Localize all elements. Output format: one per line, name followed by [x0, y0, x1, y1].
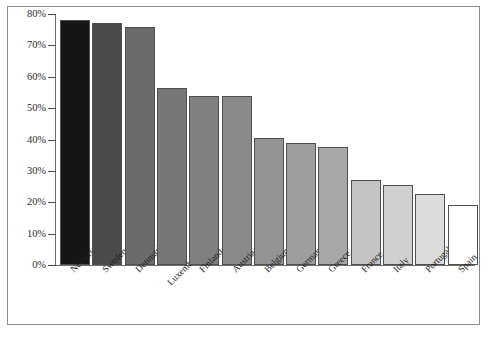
bar [222, 96, 252, 265]
chart-figure: 80%70%60%50%40%30%20%10%0% NetherlandsSw… [0, 0, 492, 339]
bar [189, 96, 219, 265]
bar [92, 23, 122, 265]
bar [157, 88, 187, 265]
bar [60, 20, 90, 265]
bar [125, 27, 155, 265]
bar [254, 138, 284, 265]
bar [318, 147, 348, 265]
bar [383, 185, 413, 265]
bar [286, 143, 316, 265]
bar-series: NetherlandsSwedenDenmarkLuxembourgFinlan… [0, 0, 492, 339]
